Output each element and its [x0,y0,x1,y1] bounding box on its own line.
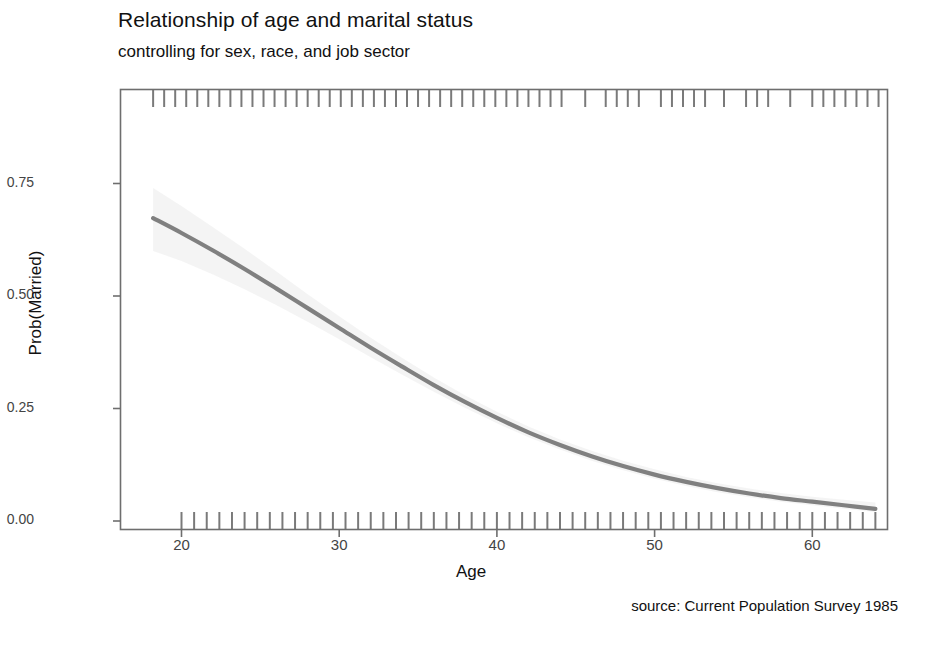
plot-area [0,0,942,646]
effect-plot: Relationship of age and marital status c… [0,0,942,646]
confidence-band [153,188,875,512]
panel-border-and-ticks [113,90,888,538]
x-tick-label: 40 [489,536,506,553]
source-caption: source: Current Population Survey 1985 [631,597,898,614]
rug-bottom [182,512,876,530]
x-tick-label: 20 [173,536,190,553]
x-tick-label: 30 [331,536,348,553]
y-tick-label: 0.25 [7,399,34,415]
x-tick-label: 50 [646,536,663,553]
y-axis-title: Prob(Married) [26,223,46,383]
x-axis-title: Age [0,562,942,582]
y-tick-label: 0.00 [7,511,34,527]
rug-top [153,89,878,107]
x-tick-label: 60 [804,536,821,553]
y-tick-label: 0.75 [7,174,34,190]
